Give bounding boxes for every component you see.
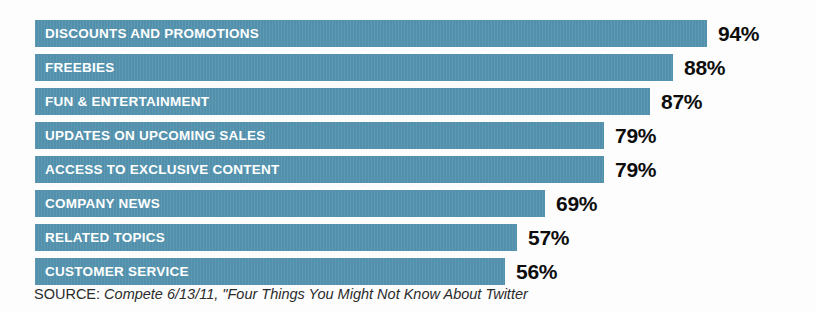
bars-area: DISCOUNTS AND PROMOTIONS 94% FREEBIES 88… — [0, 0, 816, 282]
bar-category-label: CUSTOMER SERVICE — [45, 258, 189, 285]
bar-category-label: FREEBIES — [45, 54, 115, 81]
bar-category-label: DISCOUNTS AND PROMOTIONS — [45, 20, 259, 47]
bar-value-label: 87% — [661, 88, 702, 115]
source-prefix: SOURCE: — [34, 286, 104, 302]
bar-fill — [35, 54, 673, 81]
bar-value-label: 69% — [556, 190, 597, 217]
source-citation: Compete 6/13/11, "Four Things You Might … — [104, 286, 528, 302]
bar-category-label: UPDATES ON UPCOMING SALES — [45, 122, 266, 149]
bar-category-label: ACCESS TO EXCLUSIVE CONTENT — [45, 156, 280, 183]
bar-category-label: COMPANY NEWS — [45, 190, 160, 217]
bar-value-label: 94% — [718, 20, 759, 47]
bar-category-label: RELATED TOPICS — [45, 224, 165, 251]
bar-value-label: 79% — [615, 122, 656, 149]
bar-value-label: 79% — [615, 156, 656, 183]
bar-value-label: 56% — [516, 258, 557, 285]
bar-value-label: 88% — [684, 54, 725, 81]
bar-category-label: FUN & ENTERTAINMENT — [45, 88, 209, 115]
source-note: SOURCE: Compete 6/13/11, "Four Things Yo… — [34, 286, 528, 302]
bar-value-label: 57% — [528, 224, 569, 251]
bar-chart: DISCOUNTS AND PROMOTIONS 94% FREEBIES 88… — [0, 0, 816, 313]
